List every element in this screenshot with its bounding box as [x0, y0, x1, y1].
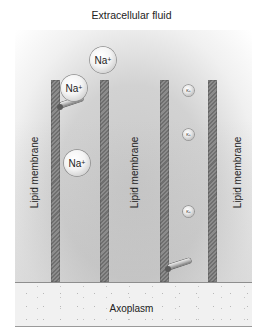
ion-charge: +	[189, 133, 191, 137]
membrane-wall-3	[160, 80, 169, 282]
ion-charge: +	[189, 89, 191, 93]
sodium-ion-icon: Na+	[90, 47, 116, 73]
lipid-membrane-label-center: Lipid membrane	[129, 123, 140, 223]
ion-symbol: Na	[69, 158, 82, 169]
sodium-gate-hinge-icon	[57, 104, 63, 110]
lipid-membrane-label-left: Lipid membrane	[29, 123, 40, 223]
potassium-ion-icon: K+	[183, 129, 194, 140]
extracellular-fluid-label: Extracellular fluid	[0, 9, 263, 21]
potassium-ion-icon: K+	[183, 85, 194, 96]
ion-charge: +	[189, 210, 191, 214]
axoplasm-label: Axoplasm	[0, 303, 263, 314]
potassium-ion-icon: K+	[183, 206, 194, 217]
sodium-ion-icon: Na+	[64, 150, 90, 176]
ion-charge: +	[78, 84, 82, 91]
ion-symbol: Na	[95, 55, 108, 66]
potassium-gate-hinge-icon	[165, 266, 171, 272]
ion-charge: +	[107, 56, 111, 63]
membrane-channel-diagram: Extracellular fluid Lipid membrane Lipid…	[0, 0, 263, 333]
ion-symbol: Na	[66, 83, 79, 94]
sodium-ion-icon: Na+	[61, 75, 87, 101]
membrane-wall-4	[208, 80, 217, 282]
lipid-membrane-label-right: Lipid membrane	[232, 123, 243, 223]
ion-charge: +	[81, 159, 85, 166]
membrane-wall-2	[100, 80, 109, 282]
membrane-wall-1	[51, 80, 60, 282]
